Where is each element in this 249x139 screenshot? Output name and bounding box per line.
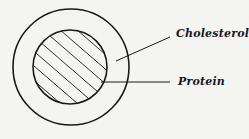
inner-circle (33, 30, 107, 104)
hatch-pattern (0, 0, 170, 139)
protein-label: Protein (178, 75, 225, 88)
cholesterol-label: Cholesterol (176, 27, 249, 40)
cholesterol-leader-line (116, 37, 170, 61)
outer-circle (13, 9, 129, 125)
diagram-canvas (0, 0, 249, 139)
